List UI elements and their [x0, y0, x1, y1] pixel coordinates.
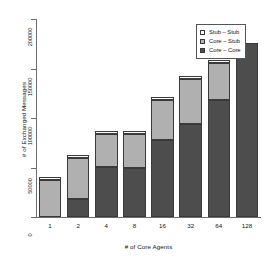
legend-label-stub-stub: Stub – Stub [209, 30, 239, 36]
x-tick-label: 16 [151, 222, 175, 229]
bar-segment-core-core [179, 124, 202, 217]
bar-segment-core-core [208, 100, 231, 217]
bar-segment-stub-stub [39, 177, 62, 180]
x-tick-label: 128 [235, 222, 259, 229]
bar-segment-stub-stub [95, 131, 118, 134]
bar-segment-stub-stub [67, 155, 90, 158]
y-tick-label: 100000 [27, 118, 33, 154]
bar-segment-core-stub [95, 134, 118, 167]
bar-segment-core-stub [123, 134, 146, 168]
bar-segment-core-stub [179, 79, 202, 124]
legend-item-core-core: Core – Core [200, 46, 241, 55]
bar-segment-core-core [123, 168, 146, 218]
y-tick-label: 150000 [27, 69, 33, 105]
bar-segment-stub-stub [179, 76, 202, 79]
bar-segment-core-core [67, 199, 90, 217]
legend-swatch-core-stub-icon [200, 39, 205, 44]
x-tick-label: 32 [179, 222, 203, 229]
legend-item-core-stub: Core – Stub [200, 37, 241, 46]
chart-legend: Stub – Stub Core – Stub Core – Core [196, 24, 246, 59]
y-tick-label: 200000 [27, 19, 33, 55]
legend-item-stub-stub: Stub – Stub [200, 28, 241, 37]
y-axis-line [36, 19, 37, 218]
legend-label-core-core: Core – Core [209, 48, 241, 54]
x-axis-title: # of Core Agents [36, 243, 261, 250]
x-tick-label: 4 [94, 222, 118, 229]
legend-swatch-core-core-icon [200, 48, 205, 53]
bar-stack [95, 19, 118, 217]
x-tick-label: 64 [207, 222, 231, 229]
x-tick-label: 2 [66, 222, 90, 229]
x-axis-line [36, 217, 261, 218]
bar-stack [67, 19, 90, 217]
bar-chart: # of Exchanged Messages # of Core Agents… [0, 0, 264, 263]
bar-segment-core-stub [67, 158, 90, 200]
bar-segment-core-core [151, 140, 174, 217]
bar-segment-core-core [95, 167, 118, 217]
bar-stack [151, 19, 174, 217]
y-axis-title: # of Exchanged Messages [20, 50, 27, 190]
x-tick-label: 1 [38, 222, 62, 229]
bar-stack [39, 19, 62, 217]
legend-label-core-stub: Core – Stub [209, 39, 240, 45]
y-tick-label: 0 [27, 217, 33, 253]
bar-segment-stub-stub [123, 131, 146, 134]
y-tick-label: 50000 [27, 168, 33, 204]
bar-segment-core-stub [208, 63, 231, 101]
legend-swatch-stub-stub-icon [200, 30, 205, 35]
bar-stack [123, 19, 146, 217]
bar-segment-core-stub [39, 180, 62, 217]
bar-segment-stub-stub [208, 60, 231, 63]
bar-segment-stub-stub [151, 97, 174, 100]
bar-segment-core-stub [151, 100, 174, 140]
bar-segment-core-core [236, 43, 259, 217]
x-tick-label: 8 [122, 222, 146, 229]
